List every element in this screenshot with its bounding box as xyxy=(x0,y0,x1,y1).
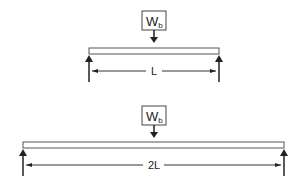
span-label: 2L xyxy=(148,159,160,171)
long-beam-diagram: Wb 2L xyxy=(19,106,288,176)
left-support-arrow-icon xyxy=(19,149,27,176)
beam xyxy=(23,142,284,148)
span-dimension: L xyxy=(92,65,216,77)
right-support-arrow-icon xyxy=(280,149,288,176)
span-label: L xyxy=(151,65,157,77)
short-beam-diagram: Wb L xyxy=(85,11,223,82)
beam xyxy=(89,48,219,54)
span-dimension: 2L xyxy=(26,159,281,171)
left-support-arrow-icon xyxy=(85,55,93,82)
right-support-arrow-icon xyxy=(215,55,223,82)
beam-diagram: Wb L Wb xyxy=(0,0,305,194)
